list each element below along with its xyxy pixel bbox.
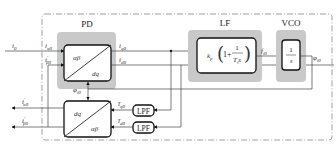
id0-label: id0 (119, 56, 126, 65)
id0-to-lpf-wire (154, 65, 181, 127)
vco-integrator-block: 1 s (282, 40, 300, 70)
fi0-label: fi0 (261, 47, 267, 56)
lf-numerator: 1 (235, 44, 239, 52)
lf-paren-close: ) (244, 43, 251, 64)
inverse-transform-bottom: αβ (91, 125, 99, 133)
pll-diagram: PD αβ dq i0 iα0 i′β0 iq0 id0 LF kp ( 1+ … (0, 0, 336, 152)
lf-label: LF (220, 18, 231, 28)
lf-one-plus: 1+ (223, 50, 232, 59)
pd-transform-bottom: dq (92, 70, 100, 78)
i-beta0-prime-label: i′β0 (45, 55, 52, 65)
svg-text:LPF: LPF (137, 124, 150, 133)
svg-text:LPF: LPF (137, 107, 150, 116)
i-alpha0-prime-out-label: i′α0 (22, 97, 29, 107)
id0-bar-label: īd0 (118, 117, 125, 126)
lf-pi-block: kp ( 1+ 1 Tis ) (197, 38, 256, 73)
inverse-park-transform-block: dq αβ (64, 101, 111, 137)
i0-label: i0 (12, 42, 17, 51)
lpf-d-block: LPF (133, 122, 154, 133)
i-beta0-prime-out-label: i′β0 (22, 116, 29, 126)
phi-i0-output-label: φi0 (313, 54, 321, 63)
pd-transform-top: αβ (73, 54, 81, 62)
inverse-transform-top: dq (74, 110, 82, 118)
iq0-label: iq0 (119, 42, 126, 51)
vco-denominator: s (290, 57, 293, 65)
i-alpha0-label: iα0 (45, 42, 53, 51)
vco-label: VCO (281, 18, 301, 28)
vco-numerator: 1 (289, 46, 293, 54)
pd-label: PD (81, 19, 93, 29)
pd-park-transform-block: αβ dq (64, 45, 111, 81)
iq0-bar-label: īq0 (118, 100, 125, 109)
lpf-q-block: LPF (133, 105, 154, 116)
iq0-to-lpf-wire (154, 51, 171, 110)
